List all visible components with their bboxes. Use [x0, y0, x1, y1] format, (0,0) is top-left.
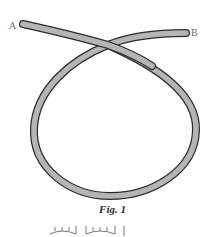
endpoint-a-label: A — [9, 21, 16, 31]
figure-caption: Fig. 1 — [0, 203, 217, 215]
rope-segment-b-under — [34, 33, 196, 196]
rope-loop-diagram — [0, 0, 217, 237]
rope-loop-figure: A B Fig. 1 — [0, 0, 217, 237]
scale-marks — [50, 226, 124, 236]
endpoint-b-label: B — [191, 28, 198, 38]
